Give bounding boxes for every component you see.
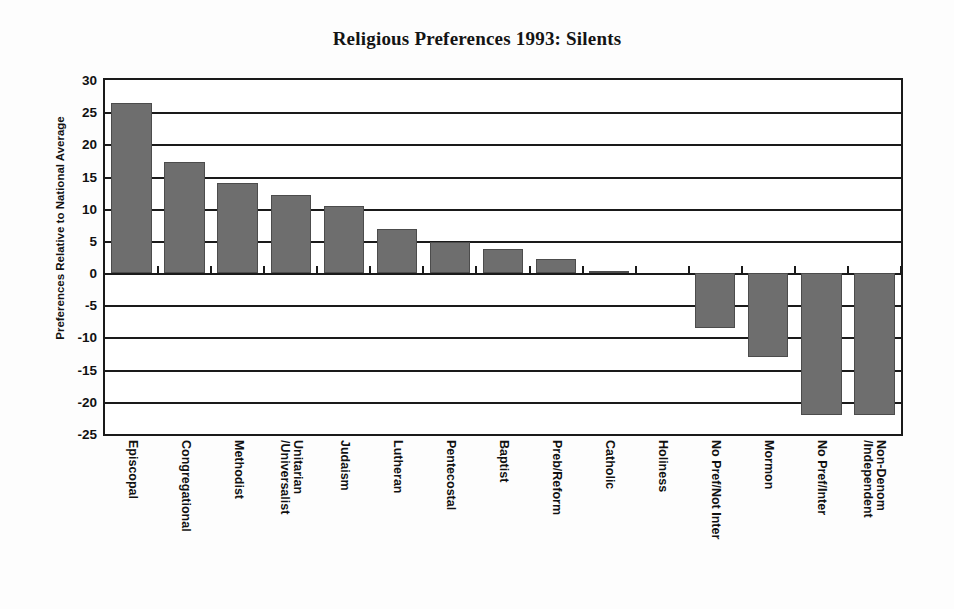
- x-axis-label-line: Baptist: [496, 440, 510, 482]
- y-axis-tick-labels: 302520151050-5-10-15-20-25: [47, 78, 97, 436]
- x-label-slot: Preb/Reform: [530, 440, 583, 605]
- x-label-slot: Methodist: [211, 440, 264, 605]
- bar-slot[interactable]: [530, 80, 583, 434]
- x-axis-label-line: /Universalist: [278, 440, 291, 514]
- y-tick-label: -20: [55, 394, 97, 409]
- x-axis-label-line: Pentecostal: [443, 440, 457, 510]
- bar[interactable]: [695, 273, 735, 328]
- x-axis-label: Preb/Reform: [550, 440, 563, 515]
- x-axis-label-line: Catholic: [603, 440, 617, 489]
- x-axis-label: Lutheran: [390, 440, 403, 493]
- bar[interactable]: [483, 249, 523, 273]
- bar[interactable]: [217, 183, 257, 273]
- x-axis-label: Judaism: [337, 440, 350, 491]
- x-axis-label-line: Methodist: [231, 440, 245, 499]
- bar-slot[interactable]: [476, 80, 529, 434]
- x-label-slot: Lutheran: [370, 440, 423, 605]
- x-axis-label-line: Preb/Reform: [550, 440, 564, 515]
- x-label-slot: Catholic: [583, 440, 636, 605]
- x-axis-label: Unitarian/Universalist: [278, 440, 304, 514]
- bar-slot[interactable]: [317, 80, 370, 434]
- x-axis-label: Congregational: [178, 440, 191, 532]
- bar[interactable]: [801, 273, 841, 415]
- x-label-slot: Mormon: [742, 440, 795, 605]
- bar[interactable]: [854, 273, 894, 415]
- y-tick-label: 5: [55, 233, 97, 248]
- x-label-slot: Unitarian/Universalist: [264, 440, 317, 605]
- bar-slot[interactable]: [795, 80, 848, 434]
- x-axis-label-line: Non-Denom: [874, 440, 888, 511]
- bar-slot[interactable]: [742, 80, 795, 434]
- y-tick-label: 10: [55, 201, 97, 216]
- bar-slot[interactable]: [423, 80, 476, 434]
- bar-slot[interactable]: [264, 80, 317, 434]
- x-label-slot: Judaism: [317, 440, 370, 605]
- x-axis-label-line: Unitarian: [291, 440, 305, 494]
- y-tick-label: -25: [55, 427, 97, 442]
- x-axis-label: No Pref/Inter: [815, 440, 828, 515]
- x-axis-label-line: Episcopal: [125, 440, 139, 499]
- x-axis-label: No Pref/Not Inter: [709, 440, 722, 539]
- x-axis-label: Holiness: [656, 440, 669, 492]
- x-label-slot: Non-Denom/Independent: [848, 440, 901, 605]
- x-axis-label: Pentecostal: [443, 440, 456, 510]
- x-axis-label: Baptist: [496, 440, 509, 482]
- x-axis-label: Non-Denom/Independent: [861, 440, 887, 518]
- bar[interactable]: [536, 259, 576, 273]
- bar[interactable]: [377, 229, 417, 273]
- bar-slot[interactable]: [370, 80, 423, 434]
- bar[interactable]: [748, 273, 788, 357]
- x-axis-label: Mormon: [762, 440, 775, 489]
- chart-container: Religious Preferences 1993: Silents Pref…: [0, 0, 954, 609]
- x-label-slot: Episcopal: [105, 440, 158, 605]
- x-label-slot: Pentecostal: [423, 440, 476, 605]
- x-axis-label-line: /Independent: [861, 440, 874, 518]
- x-axis-category-labels: EpiscopalCongregationalMethodistUnitaria…: [105, 440, 901, 605]
- bar-slot[interactable]: [211, 80, 264, 434]
- y-tick-label: -15: [55, 362, 97, 377]
- bar[interactable]: [430, 242, 470, 273]
- bar-slot[interactable]: [158, 80, 211, 434]
- x-axis-tick: [900, 266, 902, 273]
- y-tick-label: -10: [55, 330, 97, 345]
- bar-slot[interactable]: [848, 80, 901, 434]
- x-label-slot: No Pref/Not Inter: [689, 440, 742, 605]
- x-axis-label: Catholic: [603, 440, 616, 489]
- bar[interactable]: [324, 206, 364, 274]
- bar[interactable]: [164, 162, 204, 273]
- bar-slot[interactable]: [636, 80, 689, 434]
- x-axis-label-line: Mormon: [762, 440, 776, 489]
- x-label-slot: Holiness: [636, 440, 689, 605]
- bar[interactable]: [271, 195, 311, 274]
- bar[interactable]: [589, 271, 629, 273]
- bar-slot[interactable]: [105, 80, 158, 434]
- bar[interactable]: [111, 103, 151, 274]
- x-axis-label-line: Judaism: [337, 440, 351, 491]
- y-tick-label: 15: [55, 169, 97, 184]
- chart-title: Religious Preferences 1993: Silents: [0, 28, 954, 50]
- y-tick-label: 30: [55, 73, 97, 88]
- x-label-slot: No Pref/Inter: [795, 440, 848, 605]
- x-axis-label: Episcopal: [125, 440, 138, 499]
- x-label-slot: Congregational: [158, 440, 211, 605]
- x-axis-label-line: No Pref/Inter: [815, 440, 829, 515]
- bar-series: [105, 80, 901, 434]
- x-axis-label-line: Holiness: [656, 440, 670, 492]
- y-tick-label: -5: [55, 298, 97, 313]
- x-label-slot: Baptist: [476, 440, 529, 605]
- y-tick-label: 0: [55, 266, 97, 281]
- x-axis-label-line: Congregational: [178, 440, 192, 532]
- bar-slot[interactable]: [689, 80, 742, 434]
- y-tick-label: 20: [55, 137, 97, 152]
- x-axis-label: Methodist: [231, 440, 244, 499]
- bar-slot[interactable]: [583, 80, 636, 434]
- x-axis-label-line: Lutheran: [390, 440, 404, 493]
- x-axis-label-line: No Pref/Not Inter: [709, 440, 723, 539]
- y-tick-label: 25: [55, 105, 97, 120]
